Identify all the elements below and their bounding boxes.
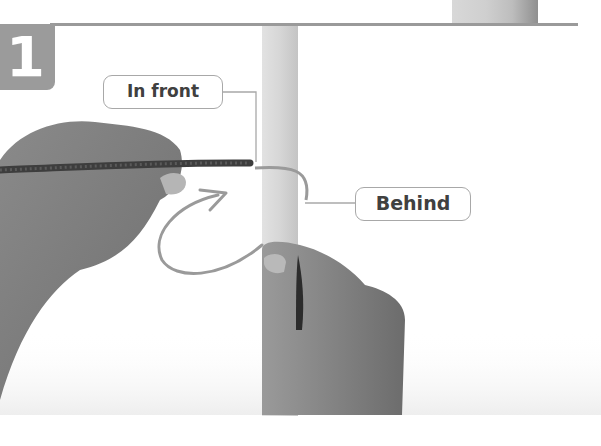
in-front-connector xyxy=(223,92,256,162)
right-hand xyxy=(262,242,405,415)
callout-behind: Behind xyxy=(355,187,471,221)
previous-step-dowel xyxy=(452,0,538,24)
callout-in-front: In front xyxy=(103,75,223,109)
step-number-badge: 1 xyxy=(0,24,55,90)
step-photo xyxy=(0,26,601,418)
wrap-direction-arrow-icon xyxy=(159,190,262,274)
